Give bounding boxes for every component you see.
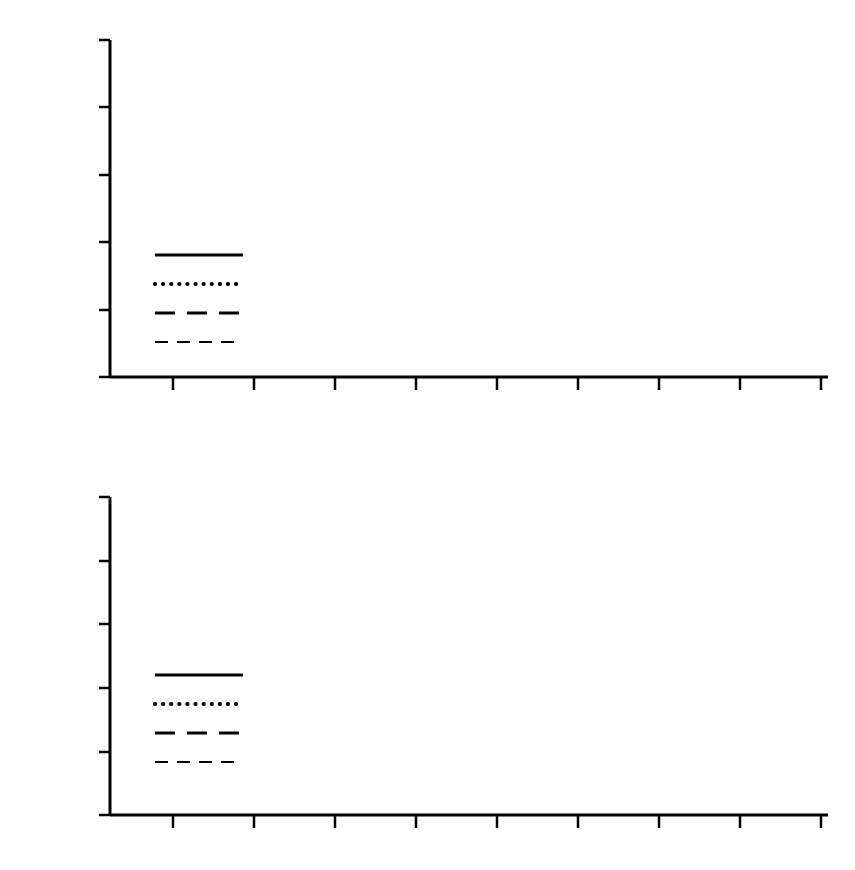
x-ticks-males (173, 377, 821, 390)
chart-panel-females (0, 440, 855, 870)
figure-page (0, 0, 855, 870)
chart-panel-males (0, 0, 855, 440)
x-ticks-females (173, 815, 821, 828)
legend-males (155, 255, 243, 342)
y-ticks-females (99, 497, 110, 815)
chart-svg-males (0, 0, 855, 440)
legend-females (155, 675, 243, 762)
chart-svg-females (0, 440, 855, 870)
y-ticks-males (99, 40, 110, 377)
